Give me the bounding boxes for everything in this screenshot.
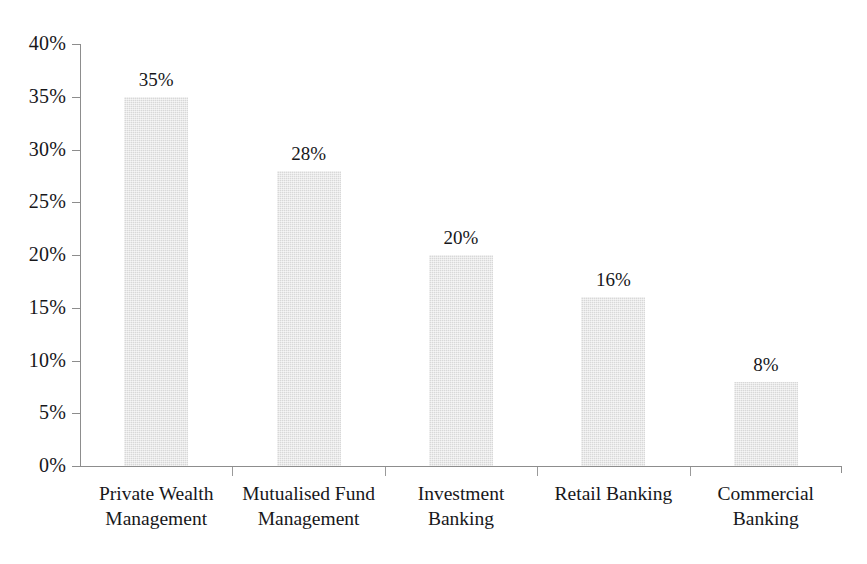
bar-value-label: 28% xyxy=(259,144,359,163)
x-axis-category-label-line: Management xyxy=(232,506,384,531)
y-axis-tick xyxy=(72,202,80,203)
y-axis-tick xyxy=(72,361,80,362)
x-axis-category-label-line: Investment xyxy=(385,481,537,506)
y-axis-tick xyxy=(72,413,80,414)
y-axis-tick-label: 25% xyxy=(0,191,66,211)
x-axis-category-label-line: Retail Banking xyxy=(537,481,689,506)
x-axis-category-tick xyxy=(385,467,386,476)
x-axis-category-label-line: Banking xyxy=(690,506,842,531)
bar xyxy=(429,255,493,466)
bar xyxy=(581,297,645,466)
y-axis-tick xyxy=(72,308,80,309)
y-axis-tick-label: 20% xyxy=(0,244,66,264)
x-axis-end-cap xyxy=(841,466,842,473)
y-axis-tick-label: 35% xyxy=(0,86,66,106)
y-axis-tick-label: 0% xyxy=(0,455,66,475)
x-axis-category-tick xyxy=(537,467,538,476)
x-axis-category-label: CommercialBanking xyxy=(690,481,842,531)
x-axis-category-label: Private WealthManagement xyxy=(80,481,232,531)
bar-value-label: 35% xyxy=(106,70,206,89)
bar xyxy=(277,171,341,466)
x-axis-category-label-line: Management xyxy=(80,506,232,531)
x-axis-category-label: InvestmentBanking xyxy=(385,481,537,531)
y-axis-tick xyxy=(72,466,80,467)
y-axis-tick xyxy=(72,97,80,98)
x-axis-category-label-line: Banking xyxy=(385,506,537,531)
bar-chart: 0%5%10%15%20%25%30%35%40% 35%28%20%16%8%… xyxy=(0,0,867,564)
x-axis-category-label-line: Commercial xyxy=(690,481,842,506)
x-axis-category-tick xyxy=(690,467,691,476)
plot-area xyxy=(80,44,842,466)
bar-value-label: 8% xyxy=(716,355,816,374)
y-axis-tick-label: 40% xyxy=(0,33,66,53)
x-axis-line xyxy=(80,466,842,467)
y-axis-tick xyxy=(72,255,80,256)
x-axis-category-label: Retail Banking xyxy=(537,481,689,506)
bar-value-label: 20% xyxy=(411,228,511,247)
x-axis-category-label-line: Private Wealth xyxy=(80,481,232,506)
bar xyxy=(124,97,188,466)
y-axis-tick xyxy=(72,150,80,151)
y-axis-tick xyxy=(72,44,80,45)
y-axis-tick-label: 5% xyxy=(0,402,66,422)
x-axis-category-tick xyxy=(232,467,233,476)
x-axis-category-label-line: Mutualised Fund xyxy=(232,481,384,506)
x-axis-category-label: Mutualised FundManagement xyxy=(232,481,384,531)
bar xyxy=(734,382,798,466)
y-axis-tick-label: 15% xyxy=(0,297,66,317)
y-axis-tick-label: 10% xyxy=(0,350,66,370)
bar-value-label: 16% xyxy=(563,270,663,289)
y-axis-tick-label: 30% xyxy=(0,139,66,159)
